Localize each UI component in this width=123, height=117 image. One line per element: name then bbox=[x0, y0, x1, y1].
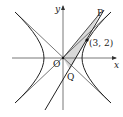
y-axis-label: y bbox=[54, 4, 61, 14]
hyperbola-diagram: y x O P Q (3, 2) bbox=[0, 0, 123, 117]
y-axis-arrow bbox=[61, 5, 65, 10]
given-point-label: (3, 2) bbox=[89, 38, 113, 48]
x-axis-label: x bbox=[114, 60, 119, 70]
origin-label: O bbox=[53, 59, 60, 69]
segment-op bbox=[63, 12, 101, 58]
origin-point bbox=[62, 57, 64, 59]
point-p-label: P bbox=[97, 8, 103, 18]
point-q-label: Q bbox=[67, 72, 74, 82]
